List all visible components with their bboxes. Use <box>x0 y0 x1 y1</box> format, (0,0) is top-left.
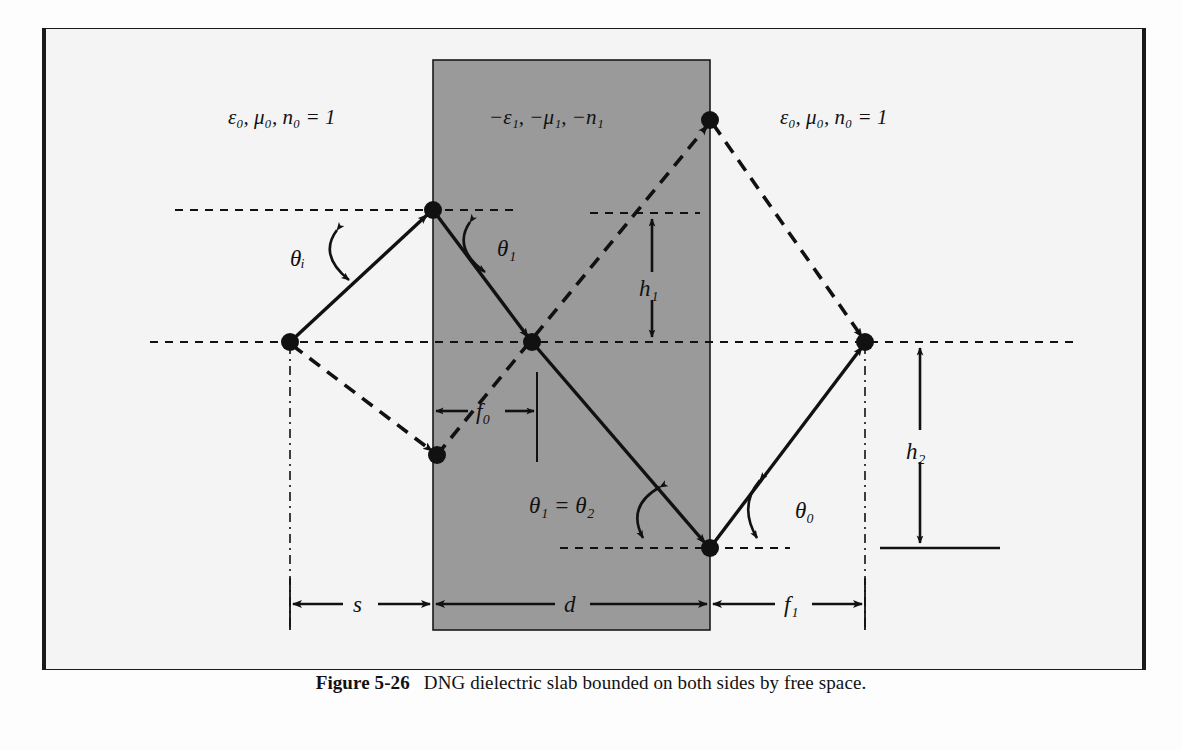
theta-0-label: θ₀ <box>795 498 814 523</box>
figure-page: ε₀, μ₀, n₀ = 1 −ε₁, −μ₁, −n₁ ε₀, μ₀, n₀ … <box>0 0 1182 750</box>
f0-label: f₀ <box>476 399 490 424</box>
theta-i-label: θᵢ <box>290 246 305 271</box>
incident-ray-segment <box>290 215 427 342</box>
left-virtual-image-point-dot <box>428 446 446 464</box>
ray-diagram-svg: ε₀, μ₀, n₀ = 1 −ε₁, −μ₁, −n₁ ε₀, μ₀, n₀ … <box>0 0 1182 750</box>
exit-ray-segment <box>710 347 862 548</box>
right-image-point-dot <box>856 333 874 351</box>
s-label: s <box>353 592 362 617</box>
slab-top-virtual-point-dot <box>701 111 719 129</box>
h2-label: h₂ <box>906 439 926 464</box>
virtual-ray-source-to-left-image <box>292 345 432 451</box>
h1-label: h₁ <box>639 276 659 301</box>
slab-medium-label: −ε₁, −μ₁, −n₁ <box>489 105 604 129</box>
source-point-dot <box>281 333 299 351</box>
figure-caption: Figure 5-26DNG dielectric slab bounded o… <box>0 672 1182 694</box>
slab-exit-bottom-point-dot <box>701 539 719 557</box>
slab-entry-point-dot <box>424 201 442 219</box>
theta-i-angle-arc <box>330 230 349 280</box>
internal-focus-point-dot <box>523 333 541 351</box>
theta-1-eq-theta-2-label: θ₁ = θ₂ <box>529 493 595 518</box>
d-label: d <box>564 592 576 617</box>
virtual-ray-slab-top-to-right-image <box>713 124 862 337</box>
dng-slab-region <box>433 60 710 630</box>
left-medium-label: ε₀, μ₀, n₀ = 1 <box>228 105 335 129</box>
figure-caption-text: DNG dielectric slab bounded on both side… <box>424 672 866 693</box>
right-medium-label: ε₀, μ₀, n₀ = 1 <box>780 105 887 129</box>
f1-label: f₁ <box>784 592 798 617</box>
theta-1-label: θ₁ <box>497 236 516 261</box>
theta-0-angle-arc <box>748 480 760 538</box>
figure-number-label: Figure 5-26 <box>316 672 410 693</box>
